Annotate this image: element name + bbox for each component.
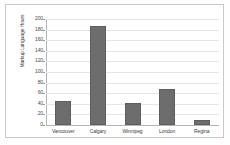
x-category-label: Winnipeg xyxy=(115,128,150,134)
gridline xyxy=(46,19,219,20)
y-tick-mark xyxy=(43,83,45,84)
y-tick-mark xyxy=(43,125,45,126)
gridline xyxy=(46,61,219,62)
y-tick-label: 160 xyxy=(35,37,43,42)
y-tick-label: 180 xyxy=(35,27,43,32)
x-category-label: Regina xyxy=(184,128,219,134)
x-category-label: Vancouver xyxy=(46,128,81,134)
gridline xyxy=(46,83,219,84)
y-tick-mark xyxy=(43,40,45,41)
y-axis-tick-labels: 020406080100120140160180200 xyxy=(26,5,43,145)
y-tick-mark xyxy=(43,30,45,31)
y-tick-label: 120 xyxy=(35,58,43,63)
y-axis-title: Markup Language Hours xyxy=(19,4,25,78)
y-tick-label: 100 xyxy=(35,69,43,74)
x-axis-line xyxy=(46,125,219,126)
bar xyxy=(194,120,210,125)
plot-area xyxy=(46,19,219,125)
x-category-label: Calgary xyxy=(81,128,116,134)
y-tick-mark xyxy=(43,19,45,20)
bar xyxy=(125,103,141,125)
x-category-label: London xyxy=(150,128,185,134)
y-tick-label: 140 xyxy=(35,48,43,53)
chart-frame: Markup Language Hours 020406080100120140… xyxy=(5,4,224,138)
y-tick-mark xyxy=(43,104,45,105)
y-tick-mark xyxy=(43,72,45,73)
chart-figure: Markup Language Hours 020406080100120140… xyxy=(0,0,230,145)
y-tick-label: 200 xyxy=(35,16,43,21)
y-tick-mark xyxy=(43,51,45,52)
bar xyxy=(90,26,106,125)
gridline xyxy=(46,93,219,94)
y-tick-mark xyxy=(43,114,45,115)
y-tick-mark xyxy=(43,93,45,94)
gridline xyxy=(46,51,219,52)
gridline xyxy=(46,40,219,41)
gridline xyxy=(46,72,219,73)
bar xyxy=(159,89,175,125)
y-tick-mark xyxy=(43,61,45,62)
bar xyxy=(55,101,71,125)
gridline xyxy=(46,30,219,31)
